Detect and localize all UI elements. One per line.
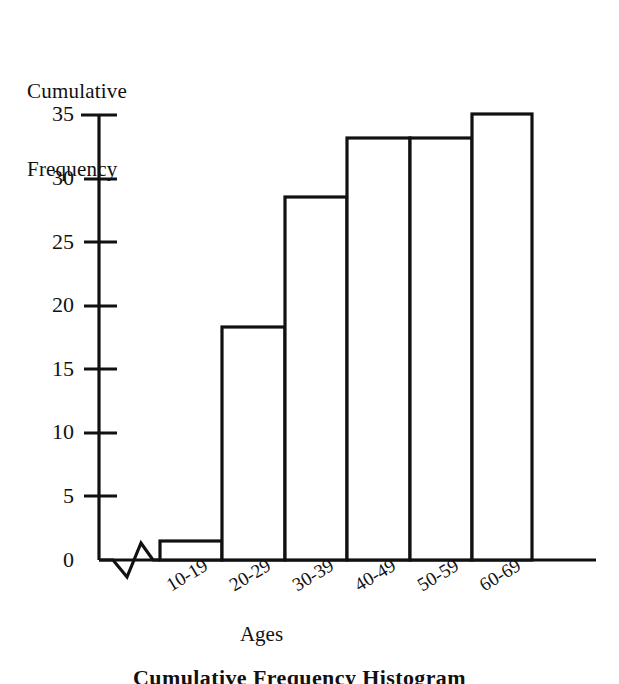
y-tick-label-5: 5	[30, 485, 74, 507]
y-tick-label-10: 10	[30, 421, 74, 443]
histogram-bars	[160, 114, 532, 560]
figure-page: Cumulative Frequency	[0, 0, 619, 684]
bar-60-69	[472, 114, 532, 560]
x-axis-title: Ages	[0, 622, 619, 647]
y-tick-label-25: 25	[30, 231, 74, 253]
y-tick-label-15: 15	[30, 358, 74, 380]
y-tick-label-20: 20	[30, 294, 74, 316]
figure-caption: Cumulative Frequency Histogram	[0, 665, 619, 684]
x-axis-title-text: Ages	[240, 622, 283, 646]
y-tick-label-0: 0	[30, 549, 74, 571]
y-tick-label-35: 35	[30, 103, 74, 125]
bar-30-39	[285, 197, 347, 560]
bar-50-59	[410, 138, 472, 560]
bar-10-19	[160, 541, 222, 560]
y-tick-label-30: 30	[30, 167, 74, 189]
bar-20-29	[222, 327, 285, 560]
bar-40-49	[347, 138, 410, 560]
figure-caption-text: Cumulative Frequency Histogram	[133, 665, 466, 684]
